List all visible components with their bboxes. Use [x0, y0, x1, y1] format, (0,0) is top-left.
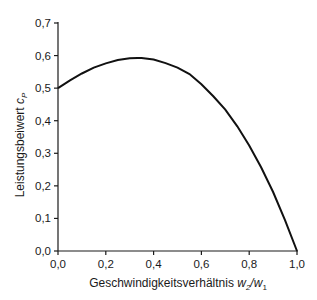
x-axis-label: Geschwindigkeitsverhältnis w2/w1 [89, 276, 267, 292]
x-tick-label: 0,0 [50, 258, 66, 270]
x-tick-label: 0,2 [98, 258, 114, 270]
line-chart: 0,00,10,20,30,40,50,60,7 0,00,20,40,60,8… [0, 0, 317, 300]
y-tick-label: 0,5 [35, 82, 51, 94]
y-tick-label: 0,3 [35, 147, 51, 159]
cp-curve [58, 58, 297, 251]
y-tick-label: 0,2 [35, 180, 51, 192]
y-tick-label: 0,7 [35, 17, 51, 29]
x-tick-label: 0,8 [241, 258, 257, 270]
x-tick-label: 1,0 [289, 258, 305, 270]
y-tick-label: 0,4 [35, 115, 52, 127]
y-tick-label: 0,1 [35, 212, 51, 224]
x-tick-label: 0,4 [146, 258, 163, 270]
x-tick-label: 0,6 [193, 258, 209, 270]
y-tick-label: 0,0 [35, 245, 51, 257]
y-axis-label: Leistungsbeiwert cP [13, 92, 29, 197]
x-axis-ticks: 0,00,20,40,60,81,0 [50, 251, 305, 270]
y-tick-label: 0,6 [35, 50, 51, 62]
y-axis-ticks: 0,00,10,20,30,40,50,60,7 [35, 17, 58, 257]
